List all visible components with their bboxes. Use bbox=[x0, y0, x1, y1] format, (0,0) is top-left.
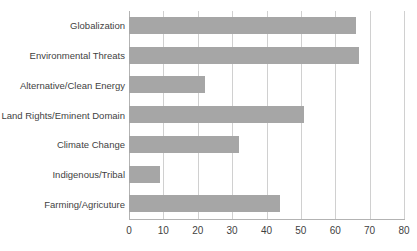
x-tick-label: 40 bbox=[261, 224, 272, 237]
bar-row bbox=[129, 70, 404, 100]
bars-layer bbox=[129, 11, 404, 219]
x-tick-label: 80 bbox=[398, 224, 409, 237]
bar[interactable] bbox=[129, 136, 239, 153]
category-label: Alternative/Clean Energy bbox=[0, 80, 125, 91]
bar-row bbox=[129, 189, 404, 219]
bar-row bbox=[129, 41, 404, 71]
category-label: Environmental Threats bbox=[0, 50, 125, 61]
x-tick-label: 70 bbox=[364, 224, 375, 237]
bar-row bbox=[129, 11, 404, 41]
x-tick-label: 20 bbox=[192, 224, 203, 237]
bar[interactable] bbox=[129, 47, 359, 64]
x-axis-tick-labels: 01020304050607080 bbox=[0, 224, 417, 244]
bar[interactable] bbox=[129, 166, 160, 183]
category-label: Land Rights/Eminent Domain bbox=[0, 110, 125, 121]
plot-area bbox=[129, 11, 404, 219]
gridline-80 bbox=[404, 11, 405, 219]
x-tick-label: 10 bbox=[158, 224, 169, 237]
x-tick-label: 30 bbox=[227, 224, 238, 237]
x-tick-label: 50 bbox=[295, 224, 306, 237]
bar-chart: GlobalizationEnvironmental ThreatsAltern… bbox=[0, 0, 417, 251]
category-label: Climate Change bbox=[0, 139, 125, 150]
bar[interactable] bbox=[129, 76, 205, 93]
x-tick-label: 0 bbox=[126, 224, 132, 237]
bar[interactable] bbox=[129, 106, 304, 123]
category-label: Globalization bbox=[0, 20, 125, 31]
category-label: Farming/Agricuture bbox=[0, 199, 125, 210]
x-axis-baseline bbox=[129, 219, 405, 220]
bar[interactable] bbox=[129, 195, 280, 212]
bar[interactable] bbox=[129, 17, 356, 34]
bar-row bbox=[129, 100, 404, 130]
bar-row bbox=[129, 130, 404, 160]
category-axis-labels: GlobalizationEnvironmental ThreatsAltern… bbox=[0, 11, 125, 219]
x-tick-label: 60 bbox=[330, 224, 341, 237]
category-label: Indigenous/Tribal bbox=[0, 169, 125, 180]
bar-row bbox=[129, 160, 404, 190]
